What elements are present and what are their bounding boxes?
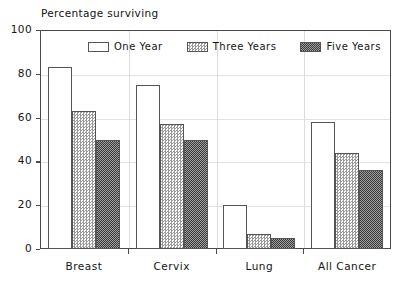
bar: [223, 205, 247, 249]
y-tick-label: 40: [0, 154, 32, 166]
legend-swatch-icon: [300, 42, 321, 52]
x-tick-label: Cervix: [153, 260, 189, 272]
bar-chart: Percentage surviving 020406080100BreastC…: [0, 0, 415, 289]
y-tick-label: 0: [0, 242, 32, 254]
legend-label: Five Years: [326, 41, 380, 52]
y-tick-mark: [36, 249, 40, 250]
y-tick-mark: [36, 74, 40, 75]
legend-swatch-icon: [88, 42, 109, 52]
y-tick-mark: [36, 161, 40, 162]
y-tick-label: 20: [0, 198, 32, 210]
x-tick-label: All Cancer: [318, 260, 376, 272]
group-separator: [129, 31, 130, 248]
bar: [48, 67, 72, 249]
chart-title: Percentage surviving: [41, 7, 158, 19]
bar: [136, 85, 160, 249]
x-tick-mark: [303, 249, 304, 254]
bar: [72, 111, 96, 249]
y-tick-label: 100: [0, 23, 32, 35]
gridline: [41, 75, 390, 76]
bar: [271, 238, 295, 249]
bar: [359, 170, 383, 249]
legend-entry: One Year: [88, 41, 163, 52]
bar: [184, 140, 208, 250]
y-tick-mark: [36, 205, 40, 206]
chart-legend: One YearThree YearsFive Years: [88, 41, 381, 52]
bar: [335, 153, 359, 249]
group-separator: [304, 31, 305, 248]
y-tick-label: 80: [0, 67, 32, 79]
legend-label: One Year: [114, 41, 163, 52]
bar: [247, 234, 271, 249]
bar: [160, 124, 184, 249]
bar: [96, 140, 120, 250]
y-tick-mark: [36, 30, 40, 31]
y-tick-mark: [36, 118, 40, 119]
group-separator: [217, 31, 218, 248]
y-tick-label: 60: [0, 111, 32, 123]
legend-entry: Three Years: [187, 41, 277, 52]
x-tick-label: Breast: [65, 260, 102, 272]
legend-label: Three Years: [213, 41, 277, 52]
x-tick-label: Lung: [246, 260, 274, 272]
x-tick-mark: [128, 249, 129, 254]
legend-swatch-icon: [187, 42, 208, 52]
x-tick-mark: [216, 249, 217, 254]
legend-entry: Five Years: [300, 41, 380, 52]
bar: [311, 122, 335, 249]
